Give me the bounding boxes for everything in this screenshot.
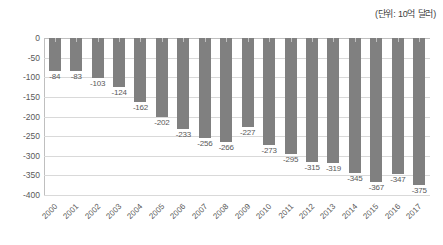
- x-axis-label-slot: 2010: [258, 196, 279, 244]
- x-axis-tick-mark: [333, 38, 334, 42]
- bar-column[interactable]: -103: [87, 38, 108, 195]
- x-axis-tick-mark: [55, 38, 56, 42]
- x-axis-label-slot: 2011: [280, 196, 301, 244]
- bar-column[interactable]: -273: [258, 38, 279, 195]
- x-axis-tick-mark: [183, 38, 184, 42]
- x-axis-tick-mark: [355, 38, 356, 42]
- x-axis-label-slot: 2016: [387, 196, 408, 244]
- bar-data-label: -162: [133, 103, 148, 112]
- x-axis-tick-mark: [162, 38, 163, 42]
- x-axis-label-slot: 2008: [216, 196, 237, 244]
- x-axis-tick-mark: [269, 38, 270, 42]
- x-axis-label-slot: 2012: [301, 196, 322, 244]
- bar-data-label: -202: [154, 118, 169, 127]
- bar-data-label: -266: [219, 143, 234, 152]
- x-axis-label-slot: 2017: [409, 196, 430, 244]
- bar-data-label: -367: [369, 183, 384, 192]
- bar[interactable]: [349, 38, 361, 173]
- x-axis-label-slot: 2015: [366, 196, 387, 244]
- x-axis-tick-mark: [205, 38, 206, 42]
- y-axis-tick-label: -50: [2, 53, 40, 63]
- bar-data-label: -83: [71, 72, 82, 81]
- x-axis-tick-mark: [312, 38, 313, 42]
- bar-data-label: -227: [240, 128, 255, 137]
- bar-data-label: -103: [90, 79, 105, 88]
- x-axis-tick-mark: [119, 38, 120, 42]
- bar-column[interactable]: -233: [173, 38, 194, 195]
- x-axis-label-slot: 2013: [323, 196, 344, 244]
- y-axis-tick-label: -200: [2, 112, 40, 122]
- bar[interactable]: [49, 38, 61, 71]
- y-axis-tick-labels: 0-50-100-150-200-250-300-350-400: [0, 38, 40, 195]
- bar[interactable]: [392, 38, 404, 174]
- bar-column[interactable]: -83: [65, 38, 86, 195]
- x-axis-tick-mark: [376, 38, 377, 42]
- bar-column[interactable]: -227: [237, 38, 258, 195]
- x-axis-label-slot: 2003: [108, 196, 129, 244]
- plot-area: -84-83-103-124-162-202-233-256-266-227-2…: [44, 38, 430, 195]
- bar-column[interactable]: -367: [366, 38, 387, 195]
- x-axis-label-slot: 2001: [65, 196, 86, 244]
- bar[interactable]: [327, 38, 339, 163]
- x-axis-tick-labels: 2000200120022003200420052006200720082009…: [44, 196, 430, 244]
- bar[interactable]: [70, 38, 82, 71]
- x-axis-label-slot: 2004: [130, 196, 151, 244]
- bar-column[interactable]: -319: [323, 38, 344, 195]
- bar-column[interactable]: -266: [216, 38, 237, 195]
- bar[interactable]: [113, 38, 125, 87]
- y-axis-tick-label: -250: [2, 131, 40, 141]
- x-axis-label-slot: 2005: [151, 196, 172, 244]
- bar-data-label: -347: [390, 175, 405, 184]
- bar-data-label: -233: [176, 130, 191, 139]
- bar-column[interactable]: -315: [301, 38, 322, 195]
- bar[interactable]: [134, 38, 146, 102]
- bar-column[interactable]: -375: [409, 38, 430, 195]
- x-axis-tick-mark: [76, 38, 77, 42]
- y-axis-tick-label: -400: [2, 190, 40, 200]
- bar-column[interactable]: -347: [387, 38, 408, 195]
- bar-data-label: -345: [347, 174, 362, 183]
- bar[interactable]: [177, 38, 189, 129]
- x-axis-tick-mark: [140, 38, 141, 42]
- bar[interactable]: [92, 38, 104, 78]
- bar[interactable]: [156, 38, 168, 117]
- y-axis-tick-label: -100: [2, 72, 40, 82]
- x-axis-label-slot: 2006: [173, 196, 194, 244]
- bar[interactable]: [285, 38, 297, 154]
- bar[interactable]: [242, 38, 254, 127]
- x-axis-tick-mark: [248, 38, 249, 42]
- x-axis-tick-mark: [419, 38, 420, 42]
- y-axis-tick-label: -150: [2, 92, 40, 102]
- y-axis-tick-label: -300: [2, 151, 40, 161]
- x-axis-label-slot: 2009: [237, 196, 258, 244]
- bar-column[interactable]: -124: [108, 38, 129, 195]
- bar-data-label: -315: [304, 163, 319, 172]
- bar-chart: (단위: 10억 달러) 0-50-100-150-200-250-300-35…: [0, 0, 443, 245]
- bar[interactable]: [263, 38, 275, 145]
- x-axis-tick-mark: [291, 38, 292, 42]
- bar-data-label: -295: [283, 155, 298, 164]
- bar-column[interactable]: -345: [344, 38, 365, 195]
- bar-column[interactable]: -84: [44, 38, 65, 195]
- bar-data-label: -84: [49, 72, 60, 81]
- bar-column[interactable]: -256: [194, 38, 215, 195]
- bar[interactable]: [306, 38, 318, 162]
- bar-data-label: -273: [262, 146, 277, 155]
- bar[interactable]: [199, 38, 211, 138]
- bar[interactable]: [413, 38, 425, 185]
- bar[interactable]: [370, 38, 382, 182]
- bar-column[interactable]: -295: [280, 38, 301, 195]
- unit-caption: (단위: 10억 달러): [375, 7, 436, 20]
- x-axis-label-slot: 2002: [87, 196, 108, 244]
- x-axis-tick-mark: [98, 38, 99, 42]
- bar-column[interactable]: -202: [151, 38, 172, 195]
- x-axis-tick-mark: [398, 38, 399, 42]
- bar[interactable]: [220, 38, 232, 142]
- bar-column[interactable]: -162: [130, 38, 151, 195]
- bar-data-label: -256: [197, 139, 212, 148]
- y-axis-tick-label: 0: [2, 33, 40, 43]
- x-axis-label-slot: 2000: [44, 196, 65, 244]
- bar-data-label: -124: [111, 88, 126, 97]
- x-axis-tick-mark: [226, 38, 227, 42]
- x-axis-label-slot: 2007: [194, 196, 215, 244]
